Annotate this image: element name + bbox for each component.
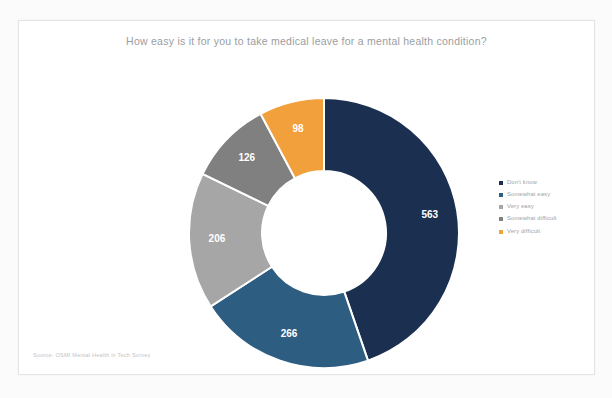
slice-value-label: 563 bbox=[421, 209, 438, 220]
legend-swatch-icon bbox=[499, 205, 503, 209]
legend-item-label: Somewhat difficult bbox=[507, 216, 557, 222]
legend-item-label: Very easy bbox=[507, 204, 534, 210]
slice-value-label: 206 bbox=[209, 233, 226, 244]
legend-item[interactable]: Very difficult bbox=[499, 226, 594, 238]
legend-swatch-icon bbox=[499, 230, 503, 234]
legend-item[interactable]: Somewhat easy bbox=[499, 189, 594, 201]
legend-item-label: Don't know bbox=[507, 180, 537, 186]
legend-item[interactable]: Somewhat difficult bbox=[499, 214, 594, 226]
slice-value-label: 266 bbox=[281, 328, 298, 339]
legend-swatch-icon bbox=[499, 193, 503, 197]
chart-card: How easy is it for you to take medical l… bbox=[18, 20, 595, 375]
donut-slice-group bbox=[189, 98, 459, 368]
legend-item-label: Very difficult bbox=[507, 229, 540, 235]
chart-legend: Don't knowSomewhat easyVery easySomewhat… bbox=[499, 177, 594, 238]
legend-item[interactable]: Don't know bbox=[499, 177, 594, 189]
legend-item[interactable]: Very easy bbox=[499, 201, 594, 213]
legend-item-label: Somewhat easy bbox=[507, 192, 550, 198]
legend-swatch-icon bbox=[499, 181, 503, 185]
slice-value-label: 98 bbox=[292, 123, 304, 134]
slice-value-label: 126 bbox=[238, 152, 255, 163]
source-note: Source: OSMI Mental Health in Tech Surve… bbox=[33, 352, 151, 358]
legend-swatch-icon bbox=[499, 217, 503, 221]
